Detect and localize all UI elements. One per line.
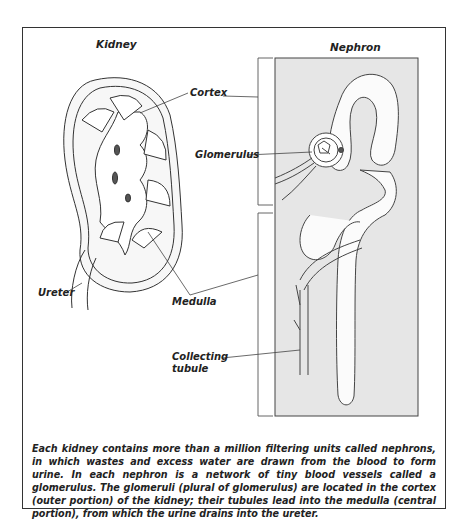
label-collecting-tubule-line1: Collecting — [172, 351, 228, 362]
medulla-leader-bracket — [190, 275, 258, 295]
figure-caption: Each kidney contains more than a million… — [32, 442, 436, 520]
label-cortex: Cortex — [190, 87, 227, 98]
medulla-bracket — [258, 213, 273, 416]
kidney-drawing — [64, 78, 183, 310]
label-medulla: Medulla — [172, 296, 217, 307]
kidney-title: Kidney — [96, 38, 137, 50]
nephron-title: Nephron — [330, 41, 381, 53]
cortex-bracket — [258, 58, 273, 205]
label-ureter: Ureter — [38, 287, 74, 298]
label-glomerulus: Glomerulus — [195, 149, 259, 160]
label-collecting-tubule-line2: tubule — [172, 363, 208, 374]
cortex-leader-bracket — [223, 96, 258, 97]
